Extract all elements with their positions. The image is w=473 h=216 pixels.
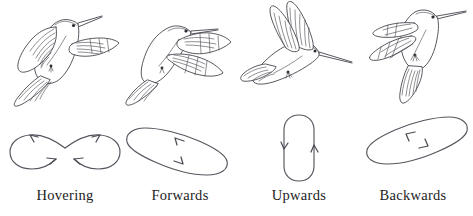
panel-backwards: Backwards (354, 0, 472, 216)
panel-label-hovering: Hovering (6, 188, 124, 203)
hummingbird-hovering (6, 0, 124, 112)
panel-label-upwards: Upwards (240, 188, 358, 203)
flight-modes-figure: Hovering (0, 0, 473, 216)
hummingbird-upwards (240, 0, 358, 112)
panel-hovering: Hovering (6, 0, 124, 216)
hummingbird-backwards (354, 0, 472, 112)
hummingbird-forwards (121, 0, 239, 112)
panel-label-backwards: Backwards (354, 188, 472, 203)
descending-stadium-path (121, 112, 239, 184)
figure-eight-path (6, 112, 124, 184)
panel-forwards: Forwards (121, 0, 239, 216)
panel-upwards: Upwards (240, 0, 358, 216)
vertical-stadium-path (240, 112, 358, 184)
panel-label-forwards: Forwards (121, 188, 239, 203)
ascending-stadium-path (354, 112, 472, 184)
